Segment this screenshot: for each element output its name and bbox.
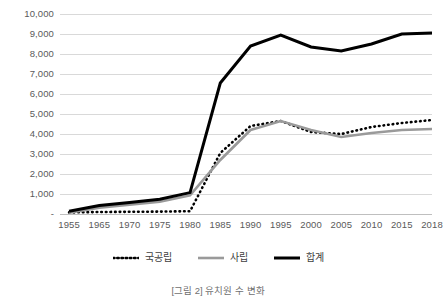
y-tick-label: - — [0, 209, 54, 219]
x-tick-label: 2015 — [391, 219, 413, 230]
figure-caption: [그림 2] 유치원 수 변화 — [0, 285, 436, 296]
chart-legend: 국공립 사립 합계 — [0, 252, 436, 263]
legend-label-public: 국공립 — [145, 252, 172, 263]
y-tick-label: 3,000 — [0, 149, 54, 159]
series-layer — [60, 14, 432, 214]
dotted-line-icon — [113, 253, 139, 263]
gridline — [60, 214, 432, 215]
x-tick-label: 1965 — [89, 219, 111, 230]
x-tick-label: 1970 — [119, 219, 141, 230]
x-tick-label: 1985 — [210, 219, 232, 230]
series-line — [69, 33, 432, 211]
x-tick-label: 2005 — [330, 219, 352, 230]
y-tick-label: 2,000 — [0, 169, 54, 179]
x-tick-label: 2018 — [421, 219, 443, 230]
y-tick-label: 8,000 — [0, 49, 54, 59]
x-tick-label: 1980 — [179, 219, 201, 230]
legend-item-total[interactable]: 합계 — [274, 252, 324, 263]
gray-line-icon — [198, 253, 224, 263]
legend-item-public[interactable]: 국공립 — [113, 252, 172, 263]
y-tick-label: 9,000 — [0, 29, 54, 39]
series-line — [69, 120, 432, 212]
black-line-icon — [274, 253, 300, 263]
y-tick-label: 5,000 — [0, 109, 54, 119]
legend-label-private: 사립 — [230, 252, 248, 263]
plot-area — [60, 14, 432, 214]
x-axis: 1955196519701975198019851990199520002005… — [60, 219, 432, 233]
x-tick-label: 1955 — [58, 219, 80, 230]
legend-label-total: 합계 — [306, 252, 324, 263]
series-line — [69, 121, 432, 213]
y-tick-label: 7,000 — [0, 69, 54, 79]
x-tick-label: 1975 — [149, 219, 171, 230]
x-tick-label: 2000 — [300, 219, 322, 230]
y-axis: -1,0002,0003,0004,0005,0006,0007,0008,00… — [0, 0, 54, 293]
x-tick-label: 1995 — [270, 219, 292, 230]
x-tick-label: 2010 — [361, 219, 383, 230]
y-tick-label: 1,000 — [0, 189, 54, 199]
legend-item-private[interactable]: 사립 — [198, 252, 248, 263]
y-tick-label: 6,000 — [0, 89, 54, 99]
x-tick-label: 1990 — [240, 219, 262, 230]
y-tick-label: 4,000 — [0, 129, 54, 139]
y-tick-label: 10,000 — [0, 9, 54, 19]
